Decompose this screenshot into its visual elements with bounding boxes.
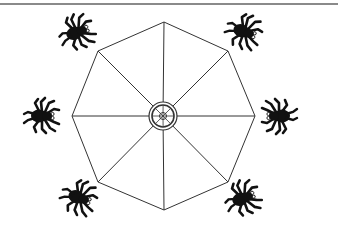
spider-palp [86,201,90,205]
spider-palp [252,195,256,199]
spider-head [269,112,279,121]
spider-palp [84,25,88,29]
spider-bottom-left-spider-icon [56,175,101,220]
spider-palp [86,29,90,33]
spider-palp [250,191,254,195]
spider-palp [251,35,255,39]
spider-right-spider-icon [262,99,297,134]
spider-leg [227,203,239,211]
spider-top-right-spider-icon [221,9,266,54]
spider-leg [24,112,35,114]
spider-palp [88,197,92,201]
spider-left-spider-icon [24,98,59,133]
spider-leg [61,37,73,45]
spider-leg [286,118,297,120]
web-diagram [0,0,338,225]
spider-top-left-spider-icon [54,10,99,55]
web-hub [149,102,177,130]
spider-palp [253,31,257,35]
spider-head [42,112,52,121]
